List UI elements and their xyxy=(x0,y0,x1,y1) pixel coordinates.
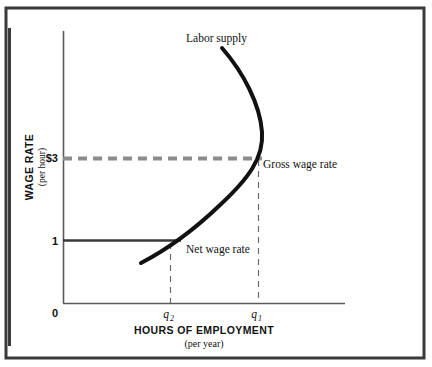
y-axis-title: WAGE RATE xyxy=(23,134,35,200)
svg-text:1: 1 xyxy=(258,314,262,323)
x-axis-title: HOURS OF EMPLOYMENT xyxy=(134,324,274,336)
x-tick-label-q1: q 1 xyxy=(251,308,262,323)
labor-supply-curve xyxy=(141,48,262,263)
origin-label: 0 xyxy=(52,307,58,319)
svg-text:q: q xyxy=(251,308,257,321)
outer-border xyxy=(6,8,424,358)
y-axis-subtitle: (per hour) xyxy=(37,148,48,186)
x-tick-label-q2: q 2 xyxy=(163,308,174,323)
figure-root: $3 1 0 q 2 q 1 HOURS OF EMPLOYMENT (per … xyxy=(0,0,432,367)
y-tick-label-1: 1 xyxy=(52,235,58,247)
svg-text:2: 2 xyxy=(170,314,174,323)
x-axis-subtitle: (per year) xyxy=(184,338,223,350)
labor-supply-label: Labor supply xyxy=(186,32,247,45)
gross-wage-rate-label: Gross wage rate xyxy=(263,158,337,171)
net-wage-rate-label: Net wage rate xyxy=(186,243,250,256)
labor-supply-chart: $3 1 0 q 2 q 1 HOURS OF EMPLOYMENT (per … xyxy=(0,0,432,367)
svg-text:q: q xyxy=(163,308,169,321)
y-tick-label-3: $3 xyxy=(46,152,58,164)
